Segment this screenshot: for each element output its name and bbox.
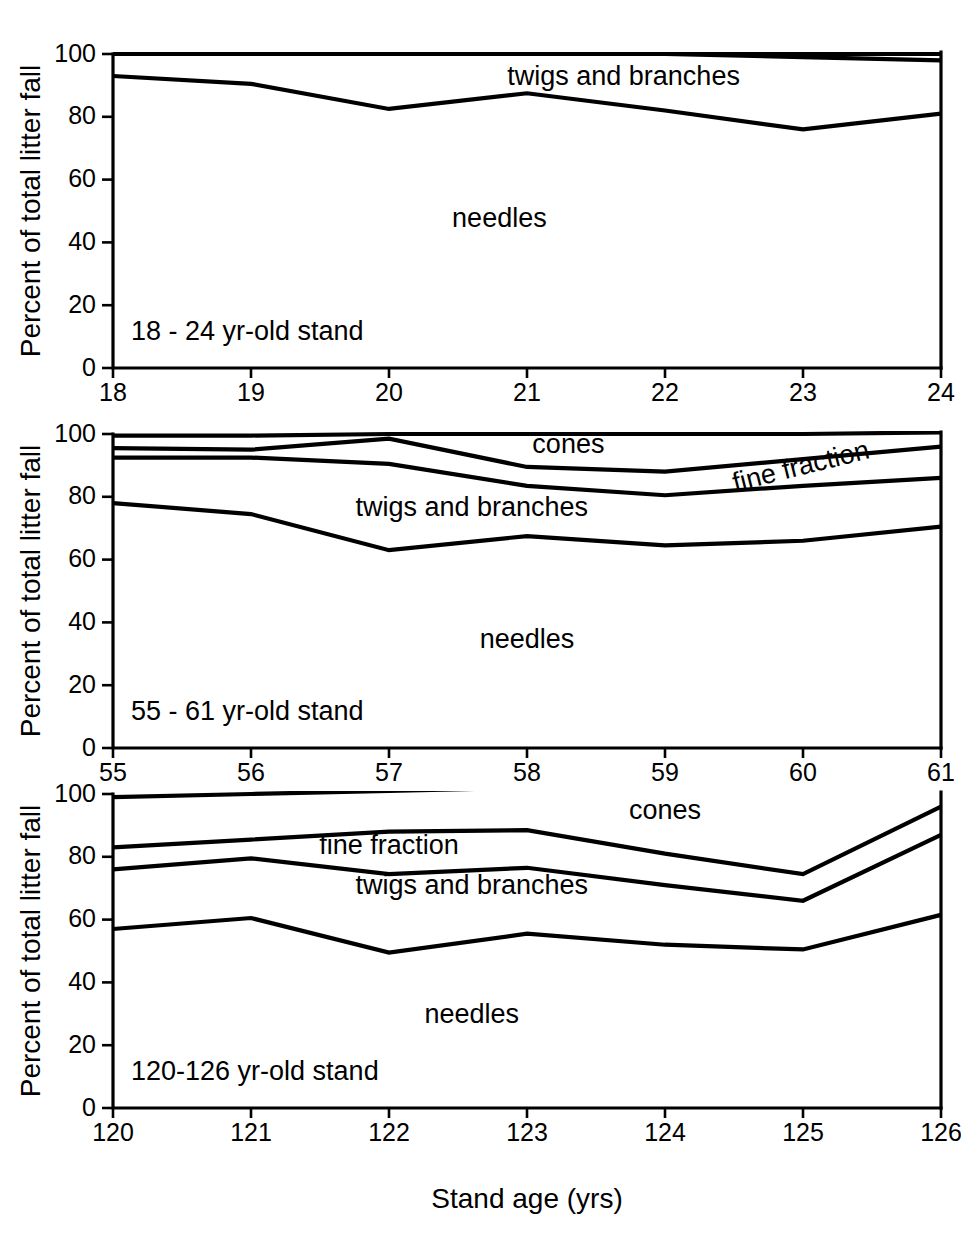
region-label: twigs and branches: [507, 61, 740, 91]
region-label: needles: [425, 999, 520, 1029]
x-tick-label: 123: [506, 1118, 548, 1146]
y-tick-label: 20: [68, 290, 96, 318]
x-tick-label: 19: [237, 378, 265, 406]
y-tick-label: 40: [68, 607, 96, 635]
y-tick-label: 60: [68, 904, 96, 932]
region-label: needles: [452, 203, 547, 233]
panel-stand-label: 120-126 yr-old stand: [131, 1056, 379, 1086]
x-tick-label: 18: [99, 378, 127, 406]
litter-fall-figure: 02040608010018192021222324twigs and bran…: [0, 0, 961, 1248]
series-line-0: [113, 432, 941, 435]
panel-3: 020406080100120121122123124125126conesfi…: [54, 778, 961, 1146]
y-tick-label: 0: [82, 1093, 96, 1121]
x-tick-label: 22: [651, 378, 679, 406]
x-tick-label: 20: [375, 378, 403, 406]
x-tick-label: 58: [513, 758, 541, 786]
y-tick-label: 100: [54, 39, 96, 67]
panel-1: 02040608010018192021222324twigs and bran…: [54, 39, 955, 407]
y-tick-label: 40: [68, 967, 96, 995]
x-tick-label: 55: [99, 758, 127, 786]
series-line-3: [113, 915, 941, 953]
x-tick-label: 60: [789, 758, 817, 786]
y-axis-title: Percent of total litter fall: [15, 65, 46, 358]
y-tick-label: 60: [68, 164, 96, 192]
panel-stand-label: 55 - 61 yr-old stand: [131, 696, 364, 726]
panel-stand-label: 18 - 24 yr-old stand: [131, 316, 364, 346]
y-tick-label: 80: [68, 841, 96, 869]
series-group: [113, 778, 941, 952]
y-tick-label: 60: [68, 544, 96, 572]
region-label: fine fraction: [729, 435, 872, 498]
x-tick-label: 122: [368, 1118, 410, 1146]
x-axis-title: Stand age (yrs): [431, 1183, 622, 1214]
y-tick-label: 80: [68, 481, 96, 509]
y-axis-title: Percent of total litter fall: [15, 445, 46, 738]
y-tick-label: 20: [68, 1030, 96, 1058]
region-label: fine fraction: [319, 830, 459, 860]
y-tick-label: 40: [68, 227, 96, 255]
y-tick-label: 0: [82, 353, 96, 381]
region-label: twigs and branches: [355, 492, 588, 522]
y-tick-label: 100: [54, 419, 96, 447]
y-tick-label: 0: [82, 733, 96, 761]
x-tick-label: 23: [789, 378, 817, 406]
region-label: needles: [480, 624, 575, 654]
x-tick-label: 126: [920, 1118, 961, 1146]
x-tick-label: 121: [230, 1118, 272, 1146]
x-tick-label: 61: [927, 758, 955, 786]
region-label: cones: [629, 795, 701, 825]
x-tick-label: 59: [651, 758, 679, 786]
chart-canvas: 02040608010018192021222324twigs and bran…: [0, 0, 961, 1248]
y-axis-title: Percent of total litter fall: [15, 805, 46, 1098]
x-tick-label: 57: [375, 758, 403, 786]
panel-2: 02040608010055565758596061conesfine frac…: [54, 419, 955, 787]
y-tick-label: 100: [54, 779, 96, 807]
region-label: twigs and branches: [355, 870, 588, 900]
region-label: cones: [532, 429, 604, 459]
x-tick-label: 24: [927, 378, 955, 406]
series-line-1: [113, 807, 941, 875]
x-tick-label: 56: [237, 758, 265, 786]
x-tick-label: 125: [782, 1118, 824, 1146]
y-tick-label: 20: [68, 670, 96, 698]
x-tick-label: 21: [513, 378, 541, 406]
x-tick-label: 120: [92, 1118, 134, 1146]
y-tick-label: 80: [68, 101, 96, 129]
x-tick-label: 124: [644, 1118, 686, 1146]
